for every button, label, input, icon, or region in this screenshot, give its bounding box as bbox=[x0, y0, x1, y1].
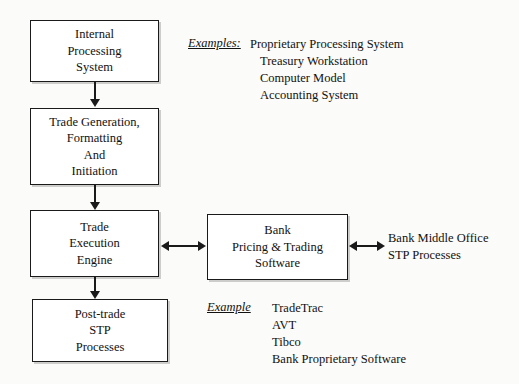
box-line: Processes bbox=[76, 339, 125, 356]
box-line: Formatting bbox=[67, 130, 123, 147]
examples-list: Proprietary Processing System Treasury W… bbox=[250, 36, 403, 104]
box-internal-processing-system[interactable]: Internal Processing System bbox=[30, 20, 159, 82]
box-line: And bbox=[84, 147, 106, 164]
connector-line-internal-to-tradegen bbox=[94, 82, 96, 100]
connector-line-tradegen-to-execution bbox=[94, 185, 96, 203]
box-line: System bbox=[76, 59, 113, 76]
box-line: Post-trade bbox=[75, 306, 126, 323]
box-trade-generation-formatting-initiation[interactable]: Trade Generation, Formatting And Initiat… bbox=[30, 108, 159, 185]
box-line: Execution bbox=[69, 235, 120, 252]
example-item: TradeTrac bbox=[272, 300, 406, 317]
box-line: Bank bbox=[264, 222, 290, 239]
box-line: Initiation bbox=[72, 163, 118, 180]
example-item: Tibco bbox=[272, 334, 406, 351]
connector-line-bank-to-middle-office bbox=[357, 245, 378, 247]
box-line: Engine bbox=[77, 252, 112, 269]
box-line: Internal bbox=[75, 26, 114, 43]
arrowhead-down-icon bbox=[90, 99, 100, 107]
side-note-line: Bank Middle Office bbox=[388, 230, 488, 247]
box-line: Trade Generation, bbox=[49, 114, 140, 131]
example-item: Accounting System bbox=[260, 87, 403, 104]
example-label: Example bbox=[207, 300, 251, 315]
box-post-trade-stp-processes[interactable]: Post-trade STP Processes bbox=[32, 299, 168, 362]
arrowhead-right-icon bbox=[198, 241, 206, 251]
arrowhead-down-icon bbox=[90, 291, 100, 299]
box-bank-pricing-trading-software[interactable]: Bank Pricing & Trading Software bbox=[207, 214, 348, 280]
example-list: TradeTrac AVT Tibco Bank Proprietary Sof… bbox=[272, 300, 406, 368]
box-line: Pricing & Trading bbox=[232, 239, 323, 256]
side-note-bank-middle-office: Bank Middle Office STP Processes bbox=[388, 230, 488, 264]
box-trade-execution-engine[interactable]: Trade Execution Engine bbox=[30, 210, 159, 277]
example-item: Computer Model bbox=[260, 70, 403, 87]
connector-line-execution-to-bank bbox=[169, 245, 199, 247]
arrowhead-down-icon bbox=[90, 202, 100, 210]
examples-label: Examples: bbox=[188, 36, 241, 51]
connector-line-execution-to-posttrade bbox=[94, 277, 96, 292]
box-line: Software bbox=[255, 255, 300, 272]
arrowhead-left-icon bbox=[349, 241, 357, 251]
example-item: Bank Proprietary Software bbox=[272, 351, 406, 368]
example-item: Proprietary Processing System bbox=[250, 36, 403, 53]
box-line: Trade bbox=[80, 219, 109, 236]
arrowhead-right-icon bbox=[377, 241, 385, 251]
side-note-line: STP Processes bbox=[388, 247, 488, 264]
diagram-canvas: Internal Processing System Trade Generat… bbox=[0, 0, 519, 384]
example-item: AVT bbox=[272, 317, 406, 334]
box-line: STP bbox=[89, 322, 111, 339]
box-line: Processing bbox=[67, 43, 121, 60]
example-item: Treasury Workstation bbox=[260, 53, 403, 70]
arrowhead-left-icon bbox=[161, 241, 169, 251]
